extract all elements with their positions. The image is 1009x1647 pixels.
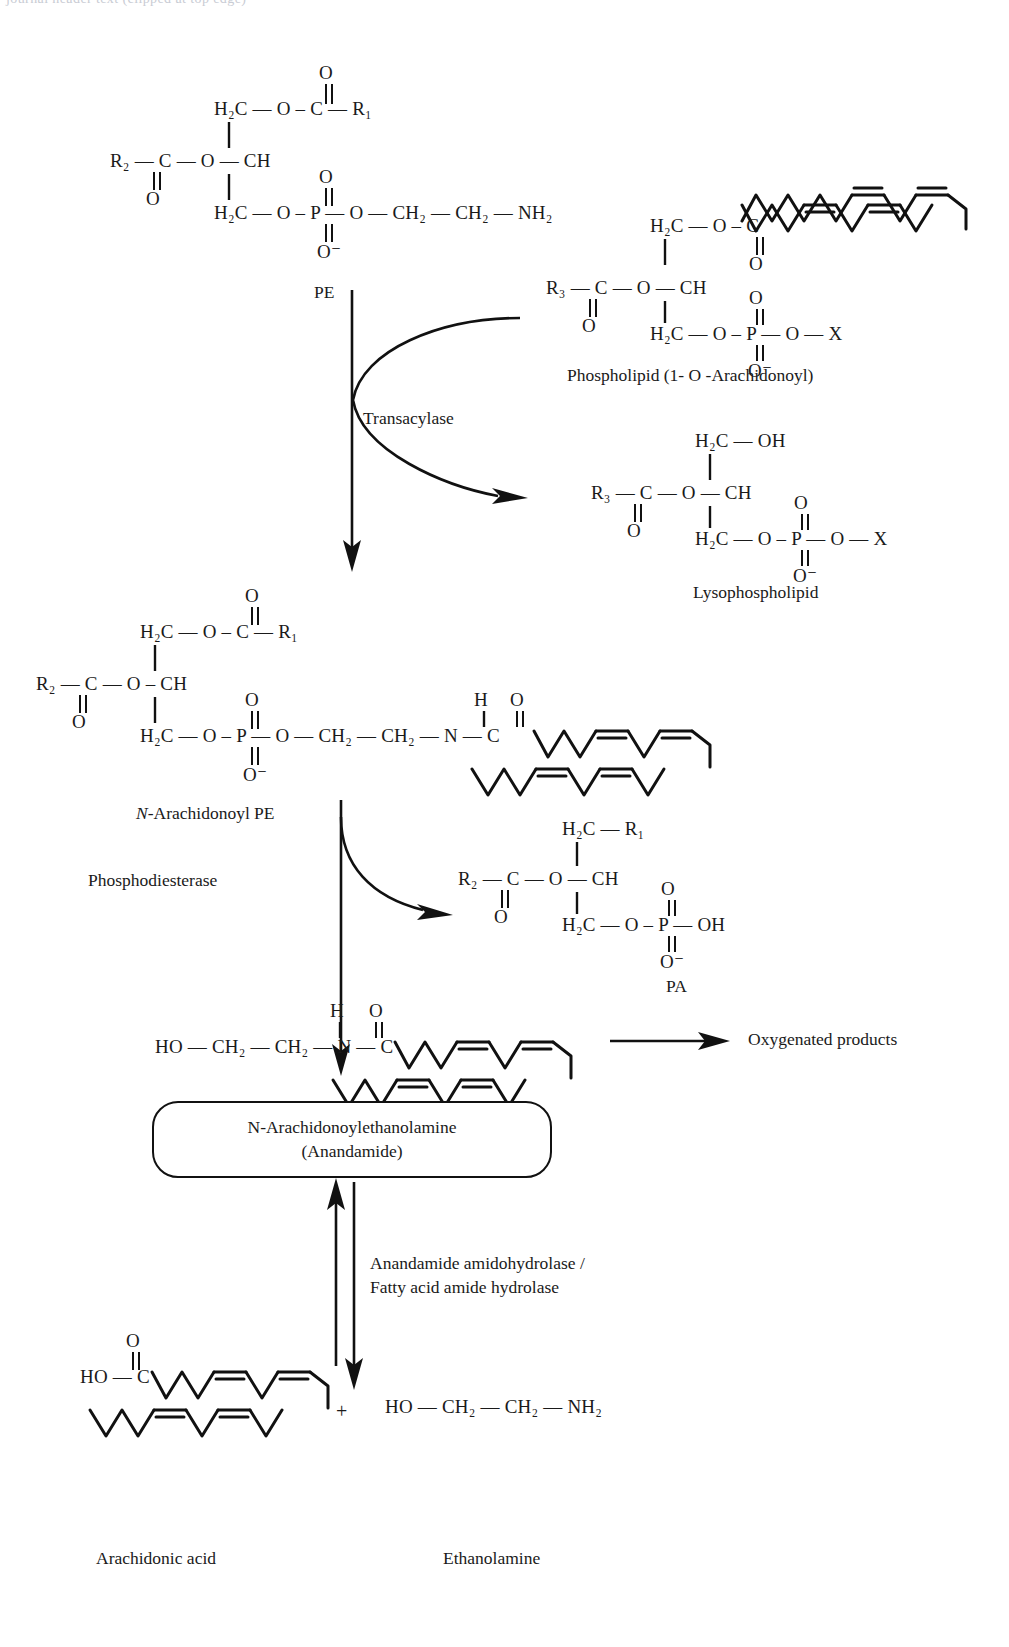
pe-p: P	[310, 202, 320, 223]
bond-dash: —	[356, 1036, 375, 1057]
bond-dash: —	[494, 202, 513, 223]
pl-bond-vertical-2	[662, 299, 668, 325]
pa-phosphate-o-top: O	[661, 878, 675, 900]
pa-o-1: O	[549, 868, 563, 889]
bond-dash: —	[253, 202, 277, 223]
bond-dash: —	[849, 528, 873, 549]
nape-r2: R₂	[36, 673, 56, 694]
eth-ho: HO	[385, 1396, 413, 1417]
lyso-o-2: O	[758, 528, 772, 549]
pe-r2: R₂	[110, 150, 130, 171]
bond-dash: —	[294, 725, 318, 746]
bond-dash: —	[543, 1396, 562, 1417]
pe-nh2: NH₂	[518, 202, 553, 223]
bond-dash: —	[177, 150, 201, 171]
pe-bond-vertical-1	[226, 120, 232, 150]
pe-ch2-2: CH₂	[455, 202, 489, 223]
bond-dash: —	[135, 150, 159, 171]
pa-h2c-2: H₂C	[562, 914, 596, 935]
lyso-phosphate-o-top: O	[794, 492, 808, 514]
phospholipid-row3: H₂C — O – P — O — X	[650, 323, 842, 345]
bond-dash: —	[188, 1036, 207, 1057]
lyso-bond-vertical-1	[707, 452, 713, 482]
nape-phosphate-o-top: O	[245, 689, 259, 711]
pa-p: P	[658, 914, 668, 935]
phospholipid-row2: R₃ — C — O — CH	[546, 277, 707, 299]
anandamide-box-line1: N-Arachidonoylethanolamine	[248, 1116, 457, 1140]
pe-h2c-1: H₂C	[214, 98, 248, 119]
pe-o-4: O	[349, 202, 363, 223]
bond-dash: —	[251, 725, 275, 746]
pa-carbonyl-o: O	[494, 906, 508, 928]
pl-h2c-2: H₂C	[650, 323, 684, 344]
eth-row: HO — CH₂ — CH₂ — NH₂	[385, 1396, 602, 1418]
bond-dash: —	[253, 98, 277, 119]
nape-r1: R₁	[278, 621, 298, 642]
pa-h2c-1: H₂C	[562, 818, 596, 839]
pe-o-1: O	[277, 98, 291, 119]
bond-dash: —	[418, 1396, 442, 1417]
ana-amide-h: H	[330, 1000, 344, 1022]
bond-dash: –	[732, 323, 742, 344]
lyso-bond-vertical-2	[707, 504, 713, 530]
plus-sign: +	[336, 1400, 347, 1423]
pa-r2: R₂	[458, 868, 478, 889]
nape-double-bond-4	[515, 711, 529, 727]
bond-dash: —	[761, 323, 785, 344]
pl-o-3: O	[713, 323, 727, 344]
bond-dash: —	[481, 1396, 505, 1417]
bond-dash: —	[656, 277, 680, 298]
pe-phosphate-o-top: O	[319, 166, 333, 188]
curved-arrow-phosphodiesterase	[313, 805, 503, 925]
label-phosphodiesterase: Phosphodiesterase	[88, 870, 217, 891]
pl-o-4: O	[785, 323, 799, 344]
bond-dash: —	[689, 323, 713, 344]
label-transacylase: Transacylase	[363, 408, 454, 429]
pl-carbonyl-o-1: O	[749, 253, 763, 275]
bond-dash: —	[601, 818, 620, 839]
bond-dash: –	[644, 914, 654, 935]
label-nape-italic-n: N	[136, 803, 148, 823]
bond-dash: —	[658, 482, 682, 503]
pe-c-2: C	[159, 150, 172, 171]
bond-dash: —	[701, 482, 725, 503]
bond-dash: –	[146, 673, 156, 694]
label-amidohydrolase-line2: Fatty acid amide hydrolase	[370, 1276, 585, 1300]
bond-dash: –	[296, 202, 306, 223]
bond-dash: —	[254, 621, 278, 642]
nape-h2c-2: H₂C	[140, 725, 174, 746]
bond-dash: —	[220, 150, 244, 171]
bond-dash: —	[113, 1366, 132, 1387]
pa-row2: R₂ — C — O — CH	[458, 868, 619, 890]
aa-row: HO — C	[80, 1366, 150, 1388]
bond-dash: —	[613, 277, 637, 298]
label-ethanolamine: Ethanolamine	[443, 1548, 540, 1569]
nape-c-1: C	[236, 621, 249, 642]
pe-ch2-1: CH₂	[392, 202, 426, 223]
pl-x: X	[828, 323, 842, 344]
nape-bond-vertical-2	[152, 695, 158, 725]
bond-dash: –	[777, 528, 787, 549]
nape-row3: H₂C — O – P — O — CH₂ — CH₂ — N — C	[140, 725, 500, 747]
pl-h2c-1: H₂C	[650, 215, 684, 236]
pe-row3: H₂C — O – P — O — CH₂ — CH₂ — NH₂	[214, 202, 553, 224]
ana-row: HO — CH₂ — CH₂ — N — C	[155, 1036, 393, 1058]
pl-bond-vertical-1	[662, 237, 668, 267]
lyso-h2c-2: H₂C	[695, 528, 729, 549]
label-amidohydrolase: Anandamide amidohydrolase / Fatty acid a…	[370, 1252, 585, 1299]
nape-row1: H₂C — O – C — R₁	[140, 621, 298, 643]
pe-o-2: O	[201, 150, 215, 171]
lyso-row1: H₂C — OH	[695, 430, 786, 452]
pa-ch: CH	[592, 868, 619, 889]
pa-bond-vertical-2	[574, 890, 580, 916]
pa-c: C	[507, 868, 520, 889]
pa-row1: H₂C — R₁	[562, 818, 644, 840]
bond-dash: —	[616, 482, 640, 503]
bond-dash: —	[368, 202, 392, 223]
aa-c: C	[137, 1366, 150, 1387]
nape-phosphate-o-minus: O⁻	[243, 763, 267, 786]
bond-dash: —	[483, 868, 507, 889]
lyso-ch: CH	[725, 482, 752, 503]
lyso-o-1: O	[682, 482, 696, 503]
ana-amide-o: O	[369, 1000, 383, 1022]
